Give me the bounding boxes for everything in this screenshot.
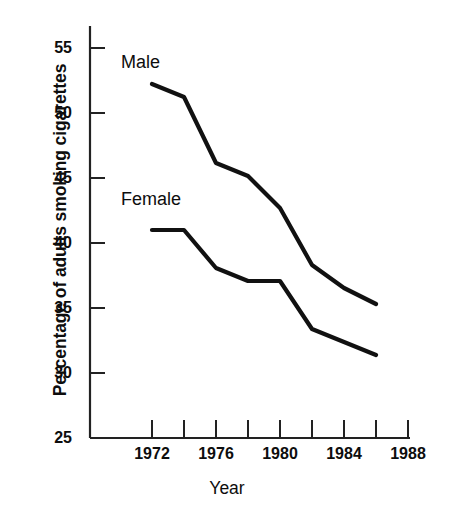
y-axis-ticks	[90, 48, 105, 373]
series-label-male: Male	[121, 53, 160, 71]
series-label-female: Female	[121, 190, 181, 208]
y-tick-label-55: 55	[26, 40, 72, 56]
x-tick-label-1972: 1972	[122, 446, 182, 462]
x-tick-label-1984: 1984	[314, 446, 374, 462]
y-tick-label-40: 40	[26, 235, 72, 251]
y-tick-label-30: 30	[26, 365, 72, 381]
series-line-female	[152, 230, 376, 355]
y-tick-label-35: 35	[26, 300, 72, 316]
y-tick-label-50: 50	[26, 105, 72, 121]
x-axis-ticks	[152, 420, 408, 438]
x-tick-label-1988: 1988	[378, 446, 438, 462]
line-chart: Percentage of adults smoking cigarettes	[0, 0, 454, 517]
y-tick-label-45: 45	[26, 170, 72, 186]
series-line-male	[152, 84, 376, 304]
x-tick-label-1976: 1976	[186, 446, 246, 462]
y-tick-label-25: 25	[26, 430, 72, 446]
x-tick-label-1980: 1980	[250, 446, 310, 462]
x-axis-title: Year	[0, 478, 454, 499]
